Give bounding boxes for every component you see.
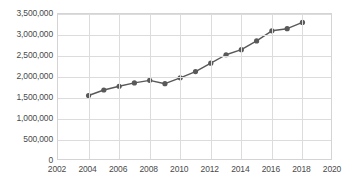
- line-chart: 3,500,0003,000,0002,500,0002,000,0001,50…: [0, 0, 348, 179]
- data-series-layer: [58, 14, 333, 161]
- gridline-horizontal: [58, 140, 331, 141]
- y-tick-label: 3,500,000: [0, 9, 53, 18]
- y-tick-label: 1,500,000: [0, 93, 53, 102]
- gridline-vertical: [211, 14, 212, 159]
- y-tick-label: 2,500,000: [0, 51, 53, 60]
- plot-area: [57, 13, 332, 160]
- gridline-vertical: [302, 14, 303, 159]
- gridline-vertical: [150, 14, 151, 159]
- gridline-vertical: [180, 14, 181, 159]
- gridline-horizontal: [58, 98, 331, 99]
- y-tick-label: 2,000,000: [0, 72, 53, 81]
- gridline-horizontal: [58, 119, 331, 120]
- gridline-horizontal: [58, 77, 331, 78]
- gridline-vertical: [89, 14, 90, 159]
- gridline-vertical: [272, 14, 273, 159]
- gridline-horizontal: [58, 56, 331, 57]
- data-point: [162, 81, 167, 86]
- gridline-vertical: [241, 14, 242, 159]
- data-point: [132, 80, 137, 85]
- y-tick-label: 0: [0, 156, 53, 165]
- x-tick-label: 2020: [312, 165, 348, 174]
- y-tick-label: 500,000: [0, 135, 53, 144]
- gridline-horizontal: [58, 14, 331, 15]
- data-point: [285, 26, 290, 31]
- gridline-vertical: [119, 14, 120, 159]
- y-tick-label: 3,000,000: [0, 30, 53, 39]
- data-point: [254, 38, 259, 43]
- gridline-horizontal: [58, 35, 331, 36]
- data-point: [193, 69, 198, 74]
- data-point: [101, 87, 106, 92]
- y-tick-label: 1,000,000: [0, 114, 53, 123]
- y-axis: 3,500,0003,000,0002,500,0002,000,0001,50…: [0, 0, 53, 179]
